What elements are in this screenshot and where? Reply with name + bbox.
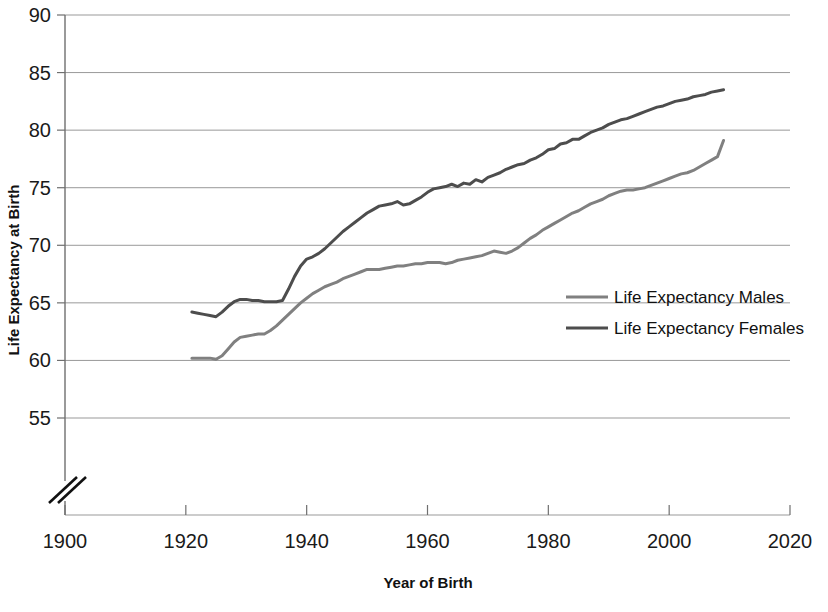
chart-canvas: 5560657075808590 19001920194019601980200… (0, 0, 828, 612)
y-tick-label: 55 (29, 407, 51, 429)
y-tick-label: 65 (29, 292, 51, 314)
y-tick-label: 75 (29, 177, 51, 199)
y-tick-label: 90 (29, 4, 51, 26)
y-axis-title: Life Expectancy at Birth (5, 185, 22, 356)
x-tick-label: 1900 (43, 530, 88, 552)
x-tick-label: 1940 (284, 530, 329, 552)
x-tick-label: 2000 (647, 530, 692, 552)
life-expectancy-chart: 5560657075808590 19001920194019601980200… (0, 0, 828, 612)
legend-label: Life Expectancy Males (614, 288, 784, 307)
x-axis-title: Year of Birth (383, 574, 472, 591)
x-tick-label: 1960 (405, 530, 450, 552)
y-tick-label: 70 (29, 234, 51, 256)
x-tick-label: 2020 (768, 530, 813, 552)
x-tick-label: 1920 (164, 530, 209, 552)
y-tick-label: 80 (29, 119, 51, 141)
y-tick-label: 85 (29, 62, 51, 84)
y-tick-label: 60 (29, 349, 51, 371)
legend-label: Life Expectancy Females (614, 319, 804, 338)
x-tick-label: 1980 (526, 530, 571, 552)
